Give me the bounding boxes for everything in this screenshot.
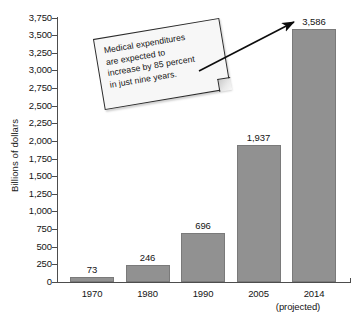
bar-value-1970: 73 <box>60 264 124 275</box>
y-tick-label: 3,750 <box>8 13 52 23</box>
x-tick-label-2014: 2014 <box>282 288 346 299</box>
y-tick-label: 2,000 <box>8 136 52 146</box>
y-tick-mark <box>52 123 58 124</box>
y-tick-label: 1,000 <box>8 206 52 216</box>
bar-1970 <box>70 277 114 282</box>
bar-1990 <box>181 233 225 282</box>
y-tick-mark <box>52 282 58 283</box>
y-tick-label: 3,250 <box>8 48 52 58</box>
y-tick-label: 1,750 <box>8 154 52 164</box>
y-tick-label: 1,500 <box>8 171 52 181</box>
bar-1980 <box>126 265 170 282</box>
y-tick-mark <box>52 141 58 142</box>
bar-value-2005: 1,937 <box>227 132 291 143</box>
y-tick-mark <box>52 159 58 160</box>
y-tick-label: 500 <box>8 242 52 252</box>
y-tick-mark <box>52 264 58 265</box>
x-axis-line <box>57 282 350 283</box>
x-tick-label-2005: 2005 <box>227 288 291 299</box>
y-tick-mark <box>52 194 58 195</box>
y-tick-mark <box>52 176 58 177</box>
callout-arrow-icon <box>195 14 305 76</box>
bar-2005 <box>237 145 281 282</box>
y-tick-mark <box>52 88 58 89</box>
x-tick-label-1980: 1980 <box>116 288 180 299</box>
bar-value-1980: 246 <box>116 252 180 263</box>
y-tick-label: 2,250 <box>8 118 52 128</box>
y-tick-mark <box>52 211 58 212</box>
y-tick-mark <box>52 106 58 107</box>
callout-folded-corner <box>217 77 232 92</box>
y-tick-mark <box>52 35 58 36</box>
y-tick-label: 3,000 <box>8 65 52 75</box>
y-tick-label: 250 <box>8 259 52 269</box>
y-tick-mark <box>52 247 58 248</box>
x-tick-label-1990: 1990 <box>171 288 235 299</box>
x-tick-note-2014: (projected) <box>266 301 330 312</box>
y-tick-label: 0 <box>8 277 52 287</box>
bar-value-1990: 696 <box>171 220 235 231</box>
y-tick-label: 1,250 <box>8 189 52 199</box>
y-axis-line <box>57 17 58 283</box>
y-tick-label: 2,750 <box>8 83 52 93</box>
y-tick-label: 2,500 <box>8 101 52 111</box>
y-tick-label: 3,500 <box>8 30 52 40</box>
y-axis-tick-labels: 3,7503,5003,2503,0002,7502,5002,2502,000… <box>8 0 52 320</box>
x-tick-label-1970: 1970 <box>60 288 124 299</box>
y-tick-mark <box>52 18 58 19</box>
y-tick-mark <box>52 229 58 230</box>
y-tick-label: 750 <box>8 224 52 234</box>
y-tick-mark <box>52 70 58 71</box>
y-tick-mark <box>52 53 58 54</box>
